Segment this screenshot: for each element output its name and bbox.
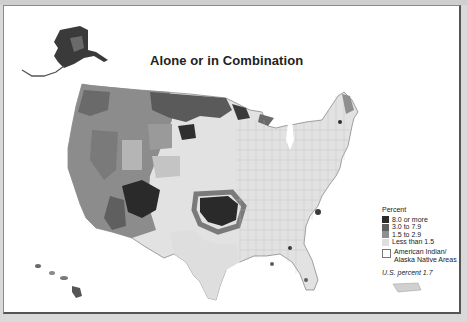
alabama-spot bbox=[288, 246, 292, 250]
legend-label: Less than 1.5 bbox=[392, 238, 434, 246]
hawaii-big-island bbox=[72, 286, 82, 298]
new-york-spot bbox=[338, 120, 342, 124]
us-percent-note: U.S. percent 1.7 bbox=[382, 269, 457, 277]
hawaii-maui bbox=[60, 276, 68, 280]
map-title: Alone or in Combination bbox=[150, 53, 303, 68]
alaska-region bbox=[22, 26, 108, 76]
puerto-rico-region bbox=[393, 283, 421, 292]
louisiana-spot bbox=[270, 262, 274, 266]
florida-spot bbox=[304, 278, 308, 282]
legend-item-ai-areas: American Indian/ Alaska Native Areas bbox=[382, 248, 457, 264]
conterminous-us-region bbox=[68, 84, 358, 300]
legend-label: American Indian/ Alaska Native Areas bbox=[394, 248, 457, 263]
legend: Percent 8.0 or more 3.0 to 7.9 1.5 to 2.… bbox=[382, 206, 457, 277]
alaska-peninsula bbox=[22, 66, 64, 76]
legend-swatch bbox=[382, 216, 389, 223]
legend-swatch bbox=[382, 239, 389, 246]
legend-label-line: American Indian/ bbox=[394, 248, 457, 256]
hawaii-kauai bbox=[35, 264, 41, 268]
utah-light bbox=[122, 140, 142, 170]
legend-swatch bbox=[382, 224, 389, 231]
puerto-rico-shape bbox=[393, 283, 421, 292]
legend-swatch-outline bbox=[382, 249, 391, 258]
hawaii-region bbox=[35, 264, 82, 298]
north-carolina-spot bbox=[315, 209, 321, 215]
hawaii-oahu bbox=[49, 271, 55, 275]
legend-swatch bbox=[382, 231, 389, 238]
legend-header: Percent bbox=[382, 206, 457, 214]
colorado-light bbox=[152, 156, 180, 178]
legend-item: Less than 1.5 bbox=[382, 239, 457, 247]
legend-label-line: Alaska Native Areas bbox=[394, 256, 457, 264]
wyoming-medium bbox=[148, 124, 172, 150]
lake-superior bbox=[262, 108, 300, 116]
